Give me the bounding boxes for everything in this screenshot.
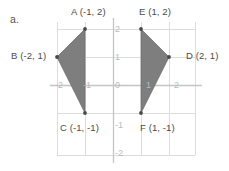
x-tick-minus-2: -2 [55,80,63,90]
y-tick-1: 1 [115,52,120,62]
point-A [83,27,87,31]
point-E [139,27,143,31]
point-B [55,55,59,59]
point-label-c: C (-1, -1) [60,122,99,133]
point-label-d: D (2, 1) [186,50,218,61]
point-label-f: F (1, -1) [140,122,175,133]
origin-tick-0: 0 [115,80,120,90]
y-tick-minus-1: -1 [115,120,123,130]
coordinate-plane-figure: a. [0,0,229,171]
y-tick-2: 2 [115,24,120,34]
point-F [139,111,143,115]
point-label-e: E (1, 2) [139,6,171,17]
left-kite-shape [57,29,85,113]
x-tick-1: 1 [146,80,151,90]
point-label-b: B (-2, 1) [11,50,46,61]
x-tick-2: 2 [174,80,179,90]
y-tick-minus-2: -2 [115,148,123,158]
point-D [167,55,171,59]
x-tick-minus-1: -1 [83,80,91,90]
point-label-a: A (-1, 2) [71,6,106,17]
right-kite-shape [141,29,169,113]
point-C [83,111,87,115]
